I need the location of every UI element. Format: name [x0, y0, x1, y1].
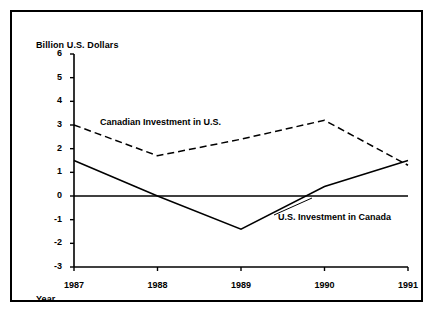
series-label-canadian-investment: Canadian Investment in U.S.: [100, 117, 221, 127]
chart-figure: Billion U.S. Dollars Year 6543210-1-2-3 …: [0, 0, 435, 316]
chart-frame-border: Billion U.S. Dollars Year 6543210-1-2-3 …: [10, 10, 423, 302]
series-line-canadian-investment-in-u-s: [74, 120, 408, 165]
series-label-us-investment: U.S. Investment in Canada: [278, 212, 391, 222]
chart-axes: [70, 54, 408, 271]
chart-plot-area: [12, 12, 425, 304]
